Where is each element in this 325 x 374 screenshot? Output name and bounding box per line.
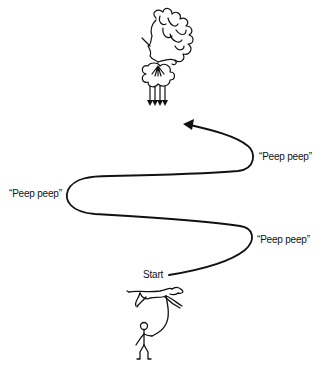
person-walking-dog-icon — [127, 287, 183, 359]
peep-peep-label-upper-right: “Peep peep” — [259, 151, 312, 163]
arrow-head-icon — [183, 119, 194, 130]
peep-peep-label-lower-right: “Peep peep” — [257, 234, 310, 246]
start-label: Start — [143, 269, 163, 281]
wind-god-cloud-icon — [142, 8, 193, 103]
wind-arrowheads-icon — [147, 100, 168, 106]
diagram-canvas — [0, 0, 325, 374]
winding-path — [67, 125, 253, 275]
peep-peep-label-left: “Peep peep” — [9, 188, 62, 200]
